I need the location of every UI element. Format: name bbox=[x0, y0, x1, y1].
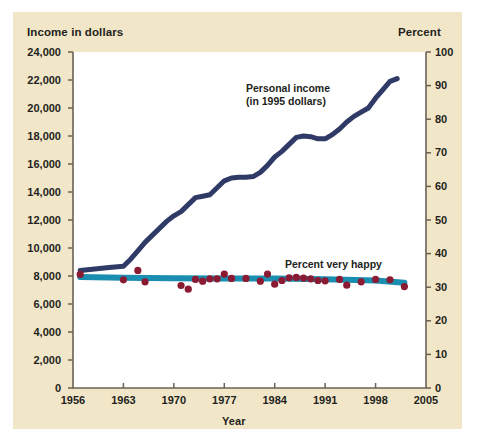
data-point bbox=[401, 283, 408, 290]
annotation-personal-income-line1: Personal income bbox=[246, 82, 330, 95]
data-point bbox=[185, 286, 192, 293]
ytick-label-left: 8,000 bbox=[7, 270, 61, 282]
ytick-label-right: 70 bbox=[435, 146, 475, 158]
xtick-label: 1970 bbox=[149, 394, 199, 406]
ytick-label-left: 2,000 bbox=[7, 354, 61, 366]
ytick-label-left: 12,000 bbox=[7, 214, 61, 226]
data-point bbox=[242, 275, 249, 282]
data-point bbox=[286, 274, 293, 281]
data-point bbox=[177, 282, 184, 289]
ytick-label-right: 100 bbox=[435, 46, 475, 58]
ytick-label-left: 24,000 bbox=[7, 46, 61, 58]
ytick-label-left: 22,000 bbox=[7, 74, 61, 86]
data-point bbox=[134, 267, 141, 274]
xtick-label: 2005 bbox=[401, 394, 451, 406]
ytick-label-left: 16,000 bbox=[7, 158, 61, 170]
data-point bbox=[336, 276, 343, 283]
chart-plot-area bbox=[0, 0, 477, 446]
ytick-label-left: 0 bbox=[7, 382, 61, 394]
data-point bbox=[307, 275, 314, 282]
annotation-percent-very-happy: Percent very happy bbox=[285, 258, 382, 271]
left-axis-title: Income in dollars bbox=[27, 26, 123, 38]
ytick-label-right: 20 bbox=[435, 314, 475, 326]
data-point bbox=[221, 271, 228, 278]
figure-root: Income in dollars Percent Year Personal … bbox=[0, 0, 477, 446]
ytick-label-right: 10 bbox=[435, 348, 475, 360]
data-point bbox=[271, 281, 278, 288]
xtick-label: 1998 bbox=[351, 394, 401, 406]
data-point bbox=[278, 277, 285, 284]
right-axis-title: Percent bbox=[398, 26, 441, 38]
annotation-personal-income: Personal income (in 1995 dollars) bbox=[246, 82, 330, 107]
data-point bbox=[300, 275, 307, 282]
data-point bbox=[77, 271, 84, 278]
xtick-label: 1984 bbox=[250, 394, 300, 406]
data-point bbox=[343, 282, 350, 289]
xtick-label: 1956 bbox=[48, 394, 98, 406]
ytick-label-right: 80 bbox=[435, 113, 475, 125]
ytick-label-left: 4,000 bbox=[7, 326, 61, 338]
x-axis-title: Year bbox=[222, 415, 246, 427]
ytick-label-left: 18,000 bbox=[7, 130, 61, 142]
data-point bbox=[213, 275, 220, 282]
data-point bbox=[228, 275, 235, 282]
data-point bbox=[192, 276, 199, 283]
ytick-label-left: 10,000 bbox=[7, 242, 61, 254]
xtick-label: 1991 bbox=[300, 394, 350, 406]
data-point bbox=[358, 278, 365, 285]
ytick-label-right: 40 bbox=[435, 247, 475, 259]
ytick-label-right: 90 bbox=[435, 79, 475, 91]
data-point bbox=[372, 276, 379, 283]
data-point bbox=[206, 275, 213, 282]
ytick-label-right: 50 bbox=[435, 214, 475, 226]
ytick-label-right: 30 bbox=[435, 281, 475, 293]
chart-svg bbox=[0, 0, 477, 446]
ytick-label-left: 6,000 bbox=[7, 298, 61, 310]
ytick-label-right: 0 bbox=[435, 382, 475, 394]
data-point bbox=[322, 277, 329, 284]
data-point bbox=[386, 276, 393, 283]
ytick-label-left: 14,000 bbox=[7, 186, 61, 198]
data-point bbox=[120, 276, 127, 283]
annotation-personal-income-line2: (in 1995 dollars) bbox=[246, 95, 330, 108]
xtick-label: 1977 bbox=[199, 394, 249, 406]
ytick-label-right: 60 bbox=[435, 180, 475, 192]
data-point bbox=[257, 278, 264, 285]
ytick-label-left: 20,000 bbox=[7, 102, 61, 114]
data-point bbox=[199, 278, 206, 285]
data-point bbox=[293, 274, 300, 281]
data-point bbox=[264, 271, 271, 278]
data-point bbox=[314, 277, 321, 284]
data-point bbox=[141, 278, 148, 285]
xtick-label: 1963 bbox=[98, 394, 148, 406]
